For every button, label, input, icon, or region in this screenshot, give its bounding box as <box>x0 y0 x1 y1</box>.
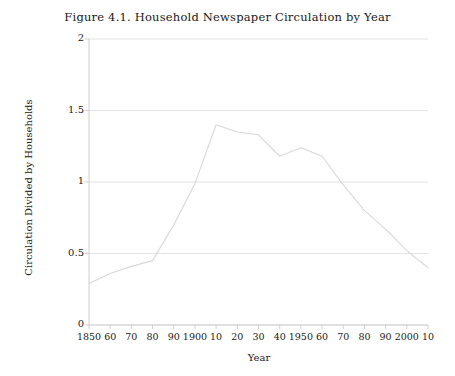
y-tick-label: 0 <box>52 318 84 329</box>
y-tick-label: 1 <box>52 175 84 186</box>
gridlines-group <box>89 39 428 325</box>
data-series-line <box>89 125 428 284</box>
y-tick-label: 2 <box>52 32 84 43</box>
y-axis-ticks-group <box>85 39 89 325</box>
x-axis-ticks-group <box>89 325 428 329</box>
y-tick-label: 1.5 <box>52 104 84 115</box>
chart-figure: Figure 4.1. Household Newspaper Circulat… <box>0 0 455 376</box>
x-tick-label: 10 <box>412 331 444 342</box>
x-axis-title: Year <box>89 352 429 363</box>
y-axis-title: Circulation Divided by Households <box>23 98 34 278</box>
y-tick-label: 0.5 <box>52 247 84 258</box>
